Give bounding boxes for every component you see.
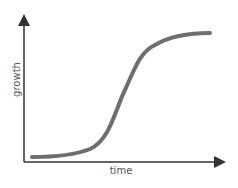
sigmoid-chart	[0, 0, 238, 188]
y-axis-label: growth	[11, 58, 22, 102]
x-axis-label: time	[106, 165, 136, 176]
growth-curve	[32, 33, 210, 157]
